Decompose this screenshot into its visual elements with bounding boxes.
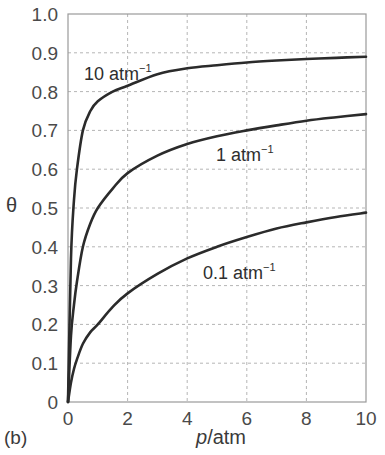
y-axis-title: θ <box>6 194 17 216</box>
y-tick-label: 0.8 <box>32 82 58 103</box>
y-tick-label: 0.2 <box>32 314 58 335</box>
y-tick-label: 1.0 <box>32 4 58 25</box>
x-axis-title: p/atm <box>195 426 246 448</box>
x-tick-label: 4 <box>182 408 193 429</box>
y-tick-label: 0.9 <box>32 43 58 64</box>
x-tick-label: 8 <box>301 408 312 429</box>
y-tick-label: 0.6 <box>32 159 58 180</box>
y-axis-ticks: 00.10.20.30.40.50.60.70.80.91.0 <box>32 4 59 413</box>
x-tick-label: 2 <box>122 408 133 429</box>
y-tick-label: 0.4 <box>32 237 59 258</box>
y-tick-label: 0.1 <box>32 353 58 374</box>
y-tick-label: 0.5 <box>32 198 58 219</box>
y-tick-label: 0.7 <box>32 120 58 141</box>
isotherm-curves <box>68 57 366 402</box>
curve-label-0-1: 0.1 atm−1 <box>203 261 276 283</box>
y-tick-label: 0 <box>47 392 58 413</box>
x-tick-label: 10 <box>355 408 376 429</box>
curve-label-1: 1 atm−1 <box>216 143 274 165</box>
x-tick-label: 0 <box>63 408 74 429</box>
adsorption-isotherm-chart: 0246810 00.10.20.30.40.50.60.70.80.91.0 … <box>0 0 385 455</box>
isotherm-curve-0 <box>68 57 366 402</box>
y-tick-label: 0.3 <box>32 276 58 297</box>
isotherm-curve-2 <box>68 213 366 402</box>
panel-label: (b) <box>4 427 27 448</box>
